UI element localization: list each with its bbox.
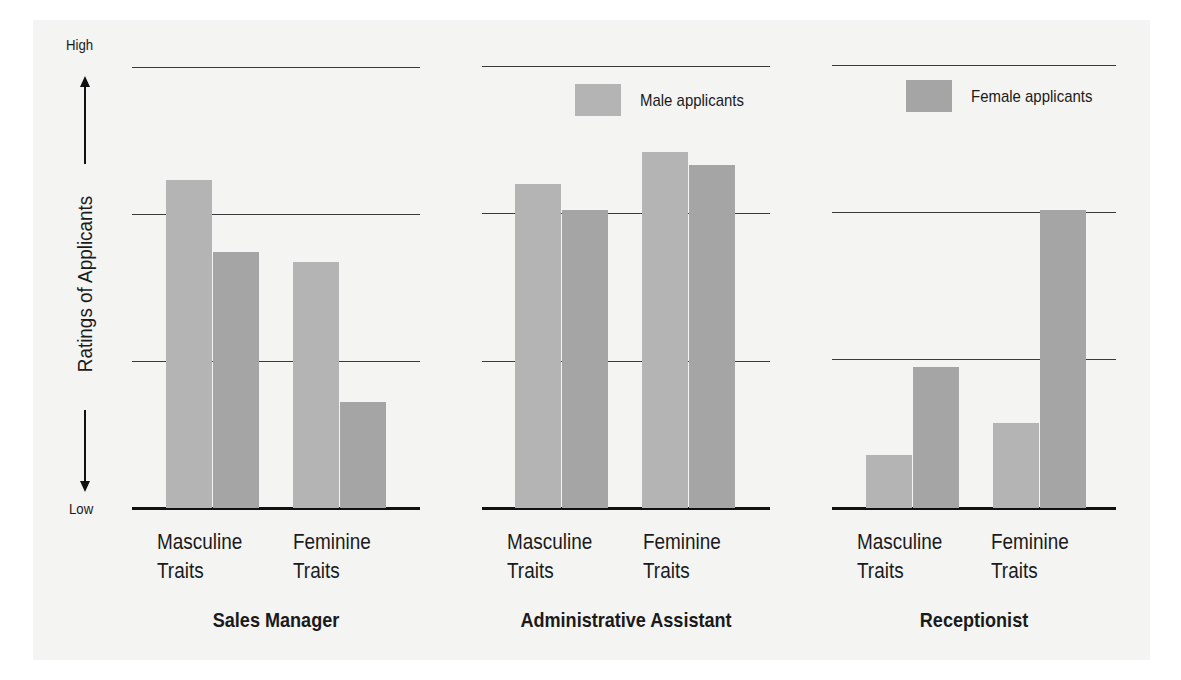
bar-female xyxy=(689,165,735,508)
category-label-line: Traits xyxy=(991,558,1038,583)
category-label-line: Feminine xyxy=(293,529,371,554)
bar-female xyxy=(562,210,608,508)
y-axis-label: Ratings of Applicants xyxy=(73,185,97,383)
category-label-line: Masculine xyxy=(857,529,942,554)
bar-male xyxy=(515,184,561,508)
category-label-masculine: MasculineTraits xyxy=(157,527,242,585)
group-title-receptionist: Receptionist xyxy=(845,608,1103,632)
arrow-up-line xyxy=(84,86,86,164)
bar-female xyxy=(1040,210,1086,508)
category-label-masculine: MasculineTraits xyxy=(857,527,942,585)
category-label-line: Traits xyxy=(157,558,204,583)
bar-female xyxy=(913,367,959,508)
category-label-line: Feminine xyxy=(991,529,1069,554)
legend-swatch-male xyxy=(575,84,621,116)
legend-label-male: Male applicants xyxy=(640,91,744,111)
bar-female xyxy=(340,402,386,508)
gridline xyxy=(832,65,1116,66)
group-title-administrative-assistant: Administrative Assistant xyxy=(497,608,755,632)
category-label-line: Traits xyxy=(293,558,340,583)
bar-male xyxy=(166,180,212,508)
gridline xyxy=(482,66,770,67)
bar-male xyxy=(293,262,339,508)
legend-label-female: Female applicants xyxy=(971,87,1092,107)
category-label-line: Feminine xyxy=(643,529,721,554)
group-title-sales-manager: Sales Manager xyxy=(147,608,405,632)
category-label-feminine: FeminineTraits xyxy=(991,527,1069,585)
y-tick-low: Low xyxy=(69,500,93,517)
category-label-line: Masculine xyxy=(507,529,592,554)
bar-male xyxy=(866,455,912,508)
y-tick-high: High xyxy=(66,36,93,53)
bar-male xyxy=(993,423,1039,508)
bar-male xyxy=(642,152,688,508)
gridline xyxy=(132,67,420,68)
category-label-line: Traits xyxy=(643,558,690,583)
arrow-down-line xyxy=(84,410,86,482)
category-label-feminine: FeminineTraits xyxy=(643,527,721,585)
bar-female xyxy=(213,252,259,508)
category-label-masculine: MasculineTraits xyxy=(507,527,592,585)
arrow-down-icon xyxy=(80,481,90,492)
category-label-line: Masculine xyxy=(157,529,242,554)
category-label-line: Traits xyxy=(507,558,554,583)
category-label-feminine: FeminineTraits xyxy=(293,527,371,585)
legend-swatch-female xyxy=(906,80,952,112)
category-label-line: Traits xyxy=(857,558,904,583)
